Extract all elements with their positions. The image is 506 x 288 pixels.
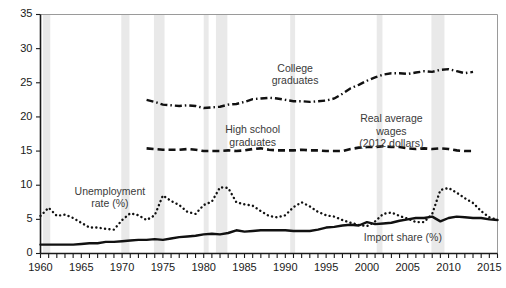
annotation-high-school-graduates: High schoolgraduates	[225, 123, 280, 148]
y-axis: 05101520253035	[20, 7, 40, 258]
chart-container: 05101520253035 1960196519701975198019851…	[0, 0, 506, 288]
y-tick-label-5: 5	[26, 212, 32, 224]
y-tick-label-10: 10	[20, 178, 32, 190]
x-tick-label-2000: 2000	[355, 261, 379, 273]
y-tick-label-35: 35	[20, 7, 32, 19]
series-annotations-group: CollegegraduatesHigh schoolgraduatesReal…	[75, 62, 442, 243]
y-tick-label-30: 30	[20, 42, 32, 54]
annotation-unemployment-rate: Unemploymentrate (%)	[75, 185, 146, 210]
x-tick-label-1985: 1985	[232, 261, 256, 273]
annotation-college-graduates: Collegegraduates	[272, 62, 319, 87]
recession-band-3	[204, 15, 209, 254]
y-tick-label-0: 0	[26, 246, 32, 258]
y-tick-label-15: 15	[20, 144, 32, 156]
x-tick-label-1965: 1965	[69, 261, 93, 273]
series-high-school-graduates	[147, 146, 473, 151]
line-chart-svg: 05101520253035 1960196519701975198019851…	[0, 0, 506, 288]
recession-band-5	[290, 15, 295, 254]
x-tick-label-2005: 2005	[395, 261, 419, 273]
x-tick-label-1970: 1970	[110, 261, 134, 273]
recession-band-2	[154, 15, 165, 254]
x-tick-label-1960: 1960	[28, 261, 52, 273]
x-tick-label-2010: 2010	[436, 261, 460, 273]
x-axis: 1960196519701975198019851990199520002005…	[28, 254, 501, 273]
x-tick-label-2015: 2015	[477, 261, 501, 273]
y-tick-label-25: 25	[20, 76, 32, 88]
recession-band-0	[43, 15, 50, 254]
x-tick-label-1990: 1990	[273, 261, 297, 273]
series-paths-group	[41, 69, 498, 244]
x-tick-label-1980: 1980	[191, 261, 215, 273]
y-tick-label-20: 20	[20, 110, 32, 122]
x-tick-label-1995: 1995	[314, 261, 338, 273]
annotation-real-average-wages: Real averagewages(2012 dollars)	[359, 112, 423, 149]
x-tick-label-1975: 1975	[151, 261, 175, 273]
annotation-import-share: Import share (%)	[364, 231, 442, 243]
